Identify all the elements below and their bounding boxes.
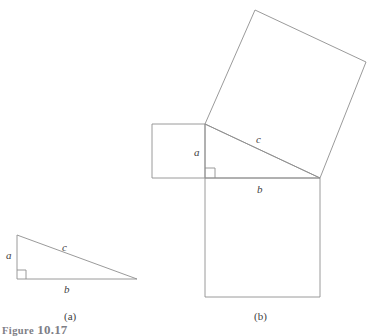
triangle-a-outline [17, 235, 137, 279]
label-leg-b-panel-b: b [257, 183, 263, 195]
pythagorean-theorem-figure: a b c (a) a b c (b) [0, 0, 371, 336]
label-leg-a-panel-a: a [6, 249, 12, 261]
panel-b-group: a b c (b) [152, 10, 366, 323]
square-on-side-b [205, 178, 320, 297]
label-leg-a-panel-b: a [194, 146, 200, 158]
figure-caption: Figure 10.17 [2, 322, 68, 336]
triangle-b-outline [205, 124, 320, 178]
panel-a-group: a b c (a) [6, 235, 137, 323]
right-angle-marker-b [205, 168, 215, 178]
label-hypotenuse-c-panel-a: c [62, 241, 67, 253]
label-hypotenuse-c-panel-b: c [256, 133, 261, 145]
figure-caption-word: Figure [2, 325, 34, 336]
label-leg-b-panel-a: b [64, 283, 70, 295]
right-angle-marker-a [17, 270, 26, 279]
panel-b-caption: (b) [254, 310, 267, 323]
square-on-side-c [205, 10, 366, 178]
figure-caption-number: 10.17 [37, 322, 67, 336]
